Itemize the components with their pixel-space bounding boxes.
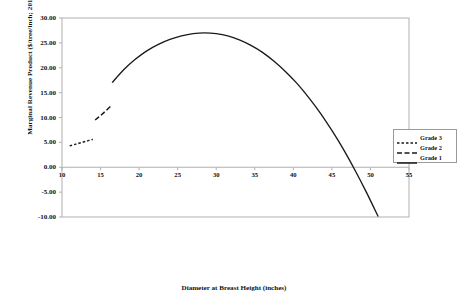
tick-marks	[59, 18, 409, 217]
x-tick-label: 30	[201, 171, 231, 178]
series-line-grade-3	[70, 139, 93, 145]
legend-key-icon	[396, 143, 418, 151]
y-tick-label: -5.00	[10, 188, 56, 196]
chart-figure: Marginal Revenue Product ($/tree/inch; 2…	[0, 0, 468, 301]
x-tick-label: 55	[394, 171, 424, 178]
x-tick-label: 15	[86, 171, 116, 178]
data-series-group	[70, 33, 378, 217]
x-tick-label: 50	[355, 171, 385, 178]
chart-legend: Grade 3Grade 2Grade 1	[393, 129, 457, 163]
legend-item[interactable]: Grade 2	[394, 142, 456, 152]
x-tick-label: 40	[278, 171, 308, 178]
x-tick-label: 20	[124, 171, 154, 178]
y-tick-label: 15.00	[10, 89, 56, 97]
series-line-grade-2	[95, 106, 111, 120]
x-tick-label: 10	[47, 171, 77, 178]
x-tick-label: 45	[317, 171, 347, 178]
plot-frame	[62, 18, 409, 217]
legend-key-icon	[396, 153, 418, 161]
y-tick-label: 20.00	[10, 64, 56, 72]
y-tick-label: -10.00	[10, 213, 56, 221]
y-tick-label: 25.00	[10, 39, 56, 47]
legend-key-icon	[396, 133, 418, 141]
legend-item[interactable]: Grade 1	[394, 152, 456, 162]
y-tick-label: 0.00	[10, 163, 56, 171]
x-tick-label: 25	[163, 171, 193, 178]
legend-label: Grade 1	[418, 154, 442, 161]
y-tick-label: 30.00	[10, 14, 56, 22]
y-tick-label: 5.00	[10, 138, 56, 146]
plot-border	[62, 18, 409, 217]
legend-item[interactable]: Grade 3	[394, 132, 456, 142]
x-tick-label: 35	[240, 171, 270, 178]
legend-label: Grade 2	[418, 144, 442, 151]
series-line-grade-1	[112, 33, 378, 217]
y-tick-label: 10.00	[10, 114, 56, 122]
legend-label: Grade 3	[418, 134, 442, 141]
